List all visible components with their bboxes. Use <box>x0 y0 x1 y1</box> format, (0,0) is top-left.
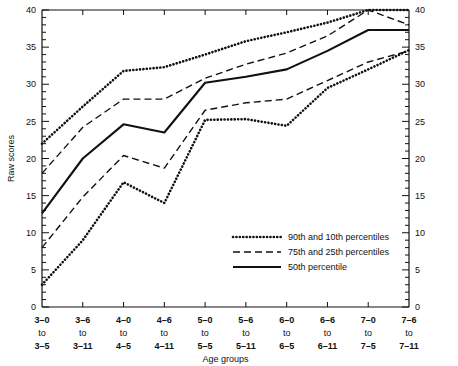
percentile-line-chart: 005510101515202025253030353540403–0to3–5… <box>0 0 458 366</box>
x-category-label-top: 3–0 <box>34 315 49 325</box>
x-category-label-to: to <box>201 328 209 338</box>
y-tick-label-right: 10 <box>415 228 425 238</box>
x-category-label-bottom: 6–11 <box>318 341 338 351</box>
series-line-75th-percentile <box>42 10 409 173</box>
y-tick-label-right: 20 <box>415 154 425 164</box>
y-tick-label-right: 35 <box>415 42 425 52</box>
y-tick-label-right: 15 <box>415 191 425 201</box>
x-category-label-top: 5–6 <box>238 315 253 325</box>
x-category-label-to: to <box>324 328 332 338</box>
y-tick-label-left: 30 <box>26 79 36 89</box>
x-category-label-top: 4–0 <box>116 315 131 325</box>
x-category-label-bottom: 3–5 <box>34 341 49 351</box>
x-category-label-bottom: 5–11 <box>236 341 256 351</box>
x-category-label-bottom: 3–11 <box>73 341 93 351</box>
y-tick-label-left: 0 <box>31 302 36 312</box>
x-category-label-bottom: 7–5 <box>361 341 376 351</box>
series-line-50th-percentile <box>42 30 409 213</box>
x-category-label-to: to <box>405 328 413 338</box>
y-tick-label-right: 0 <box>415 302 420 312</box>
x-category-label-top: 6–6 <box>320 315 335 325</box>
x-category-label-top: 7–6 <box>401 315 416 325</box>
legend-label: 50th percentile <box>288 262 347 272</box>
y-tick-label-left: 20 <box>26 154 36 164</box>
x-category-label-bottom: 6–5 <box>279 341 294 351</box>
y-tick-label-right: 5 <box>415 265 420 275</box>
legend-label: 90th and 10th percentiles <box>288 232 390 242</box>
x-category-label-to: to <box>120 328 128 338</box>
y-tick-label-left: 35 <box>26 42 36 52</box>
y-tick-label-right: 30 <box>415 79 425 89</box>
x-axis-title: Age groups <box>202 354 249 364</box>
x-category-label-to: to <box>283 328 291 338</box>
x-category-label-bottom: 4–5 <box>116 341 131 351</box>
y-tick-label-right: 25 <box>415 117 425 127</box>
x-category-label-to: to <box>38 328 46 338</box>
y-axis-title: Raw scores <box>6 134 16 182</box>
x-category-label-bottom: 5–5 <box>198 341 213 351</box>
chart-container: 005510101515202025253030353540403–0to3–5… <box>0 0 458 366</box>
y-tick-label-left: 40 <box>26 5 36 15</box>
y-tick-label-left: 5 <box>31 265 36 275</box>
x-category-label-to: to <box>364 328 372 338</box>
y-tick-label-left: 10 <box>26 228 36 238</box>
x-category-label-top: 5–0 <box>198 315 213 325</box>
legend-label: 75th and 25th percentiles <box>288 247 390 257</box>
x-category-label-bottom: 7–11 <box>399 341 419 351</box>
x-category-label-top: 6–0 <box>279 315 294 325</box>
y-tick-label-left: 25 <box>26 117 36 127</box>
x-category-label-to: to <box>161 328 169 338</box>
y-tick-label-left: 15 <box>26 191 36 201</box>
x-category-label-to: to <box>79 328 87 338</box>
x-category-label-top: 4–6 <box>157 315 172 325</box>
x-category-label-top: 3–6 <box>75 315 90 325</box>
y-tick-label-right: 40 <box>415 5 425 15</box>
x-category-label-to: to <box>242 328 250 338</box>
x-category-label-top: 7–0 <box>361 315 376 325</box>
x-category-label-bottom: 4–11 <box>155 341 175 351</box>
